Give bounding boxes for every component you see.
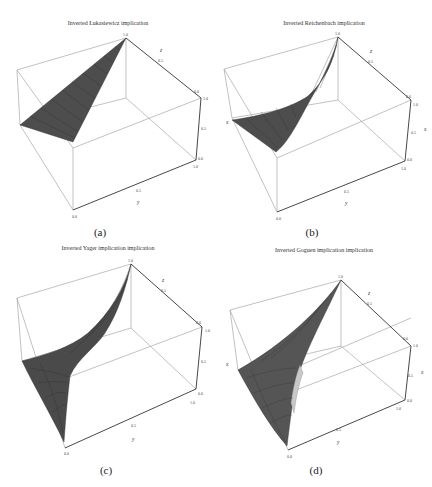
z-tick-1: 1.0 [123, 32, 128, 37]
panel-a: Inverted Łukasiewicz implication [0, 0, 216, 243]
y-tick-1: 1.0 [396, 406, 401, 411]
z-tick-0: 0.0 [406, 94, 411, 99]
panel-b: Inverted Reichenbach implication [216, 0, 432, 243]
panel-d: Inverted Goguen implication implication [216, 243, 432, 486]
panel-c: Inverted Yager implication implication [0, 243, 216, 486]
x-axis-label-right: x [424, 126, 426, 132]
x-tick-0: 0.0 [407, 398, 412, 403]
z-axis-label: z [368, 290, 370, 296]
x-tick-05: 0.5 [411, 130, 416, 135]
y-axis-label: y [337, 439, 339, 445]
panel-caption: (a) [0, 226, 208, 238]
z-tick-1: 1.0 [335, 31, 340, 36]
surface-plot [0, 243, 216, 486]
y-tick-1: 1.0 [401, 166, 406, 171]
surface-plot [216, 243, 432, 486]
x-tick-1: 1.0 [205, 328, 210, 333]
x-tick-0: 0.0 [198, 156, 203, 161]
x-tick-1: 1.0 [203, 96, 208, 101]
x-axis-label-left: x [226, 119, 228, 125]
y-tick-1: 1.0 [193, 164, 198, 169]
y-tick-05: 0.5 [344, 189, 349, 194]
z-tick-05: 0.5 [158, 58, 163, 63]
y-tick-0: 0.0 [287, 454, 292, 459]
y-tick-0: 0.0 [64, 451, 69, 456]
y-tick-05: 0.5 [131, 423, 136, 428]
y-tick-1: 1.0 [190, 400, 195, 405]
panel-caption: (c) [0, 464, 214, 476]
z-axis-label: z [162, 277, 164, 283]
z-tick-1: 1.0 [338, 274, 343, 279]
y-tick-05: 0.5 [336, 427, 341, 432]
x-tick-05: 0.5 [408, 373, 413, 378]
y-axis-label: y [137, 199, 139, 205]
y-axis-label: y [132, 436, 134, 442]
z-tick-05: 0.5 [367, 301, 372, 306]
x-axis-label-left: x [226, 361, 228, 367]
surface-plot [216, 0, 432, 243]
x-tick-05: 0.5 [201, 359, 206, 364]
z-axis-label: z [370, 48, 372, 54]
z-tick-1: 1.0 [128, 258, 133, 263]
x-tick-1: 1.0 [413, 102, 418, 107]
panel-caption: (b) [204, 226, 420, 238]
x-tick-05: 0.5 [201, 126, 206, 131]
y-axis-label: y [345, 200, 347, 206]
x-tick-0: 0.0 [198, 391, 203, 396]
z-tick-05: 0.5 [161, 288, 166, 293]
surface-plot [0, 0, 216, 243]
z-axis-label: z [160, 47, 162, 53]
y-tick-0: 0.0 [72, 214, 77, 219]
panel-caption: (d) [208, 464, 424, 476]
x-axis-label-right: x [421, 369, 423, 375]
z-tick-0: 0.0 [403, 336, 408, 341]
z-tick-05: 0.5 [368, 59, 373, 64]
x-tick-1: 1.0 [413, 343, 418, 348]
y-tick-05: 0.5 [136, 188, 141, 193]
z-tick-0: 0.0 [194, 89, 199, 94]
z-tick-0: 0.0 [196, 320, 201, 325]
y-tick-0: 0.0 [276, 216, 281, 221]
x-tick-0: 0.0 [407, 157, 412, 162]
